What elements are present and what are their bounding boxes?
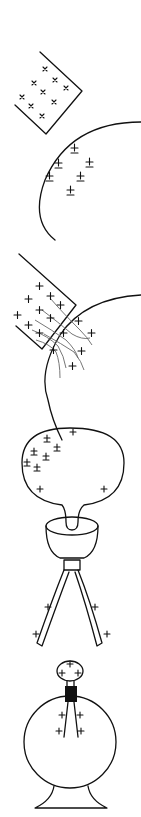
electroscope-base	[35, 786, 107, 808]
electroscope-stopper	[65, 686, 77, 702]
charged-block-outline	[15, 52, 82, 134]
sphere-plus-minus-marks	[46, 144, 93, 195]
electroscope-flask	[24, 696, 116, 788]
contact-plus-marks	[14, 283, 95, 370]
funnel-base	[46, 517, 98, 570]
panel-contact-charge-transfer	[14, 254, 141, 440]
electrostatics-diagram	[0, 0, 141, 817]
panel-bulb-on-stand	[22, 428, 124, 646]
bulb-outline	[22, 428, 124, 530]
bulb-leaves	[37, 570, 102, 646]
block-cross-marks	[20, 67, 68, 118]
panel-electroscope	[24, 661, 116, 808]
electroscope-rod	[67, 681, 74, 686]
sphere-outline	[39, 122, 141, 240]
panel-separated-charged-objects	[15, 52, 141, 240]
electroscope-leaves	[64, 702, 78, 737]
